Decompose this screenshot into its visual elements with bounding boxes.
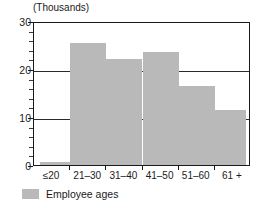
bar-group (34, 23, 249, 165)
legend-label-employee-ages: Employee ages (46, 188, 118, 200)
y-axis-major-tick (28, 166, 33, 167)
chart-legend: Employee ages (22, 188, 118, 200)
bar (143, 52, 179, 165)
bar (40, 162, 70, 165)
x-axis-tick-label: ≤20 (33, 170, 69, 182)
x-axis-tick-label: 31–40 (105, 170, 141, 182)
x-axis-tick-label: 21–30 (69, 170, 105, 182)
x-axis-tick-label: 61 + (214, 170, 250, 182)
plot-inner (34, 23, 249, 165)
x-axis-tick-label: 51–60 (178, 170, 214, 182)
bar (70, 43, 106, 165)
plot-area (33, 22, 250, 166)
employee-ages-bar-chart: (Thousands) 0102030 ≤2021–3031–4041–5051… (0, 0, 267, 208)
bar (179, 86, 215, 165)
axis-unit-note: (Thousands) (33, 2, 89, 14)
legend-swatch-employee-ages (22, 189, 39, 199)
bar (106, 59, 142, 165)
x-axis-tick-label: 41–50 (142, 170, 178, 182)
bar (215, 110, 246, 165)
